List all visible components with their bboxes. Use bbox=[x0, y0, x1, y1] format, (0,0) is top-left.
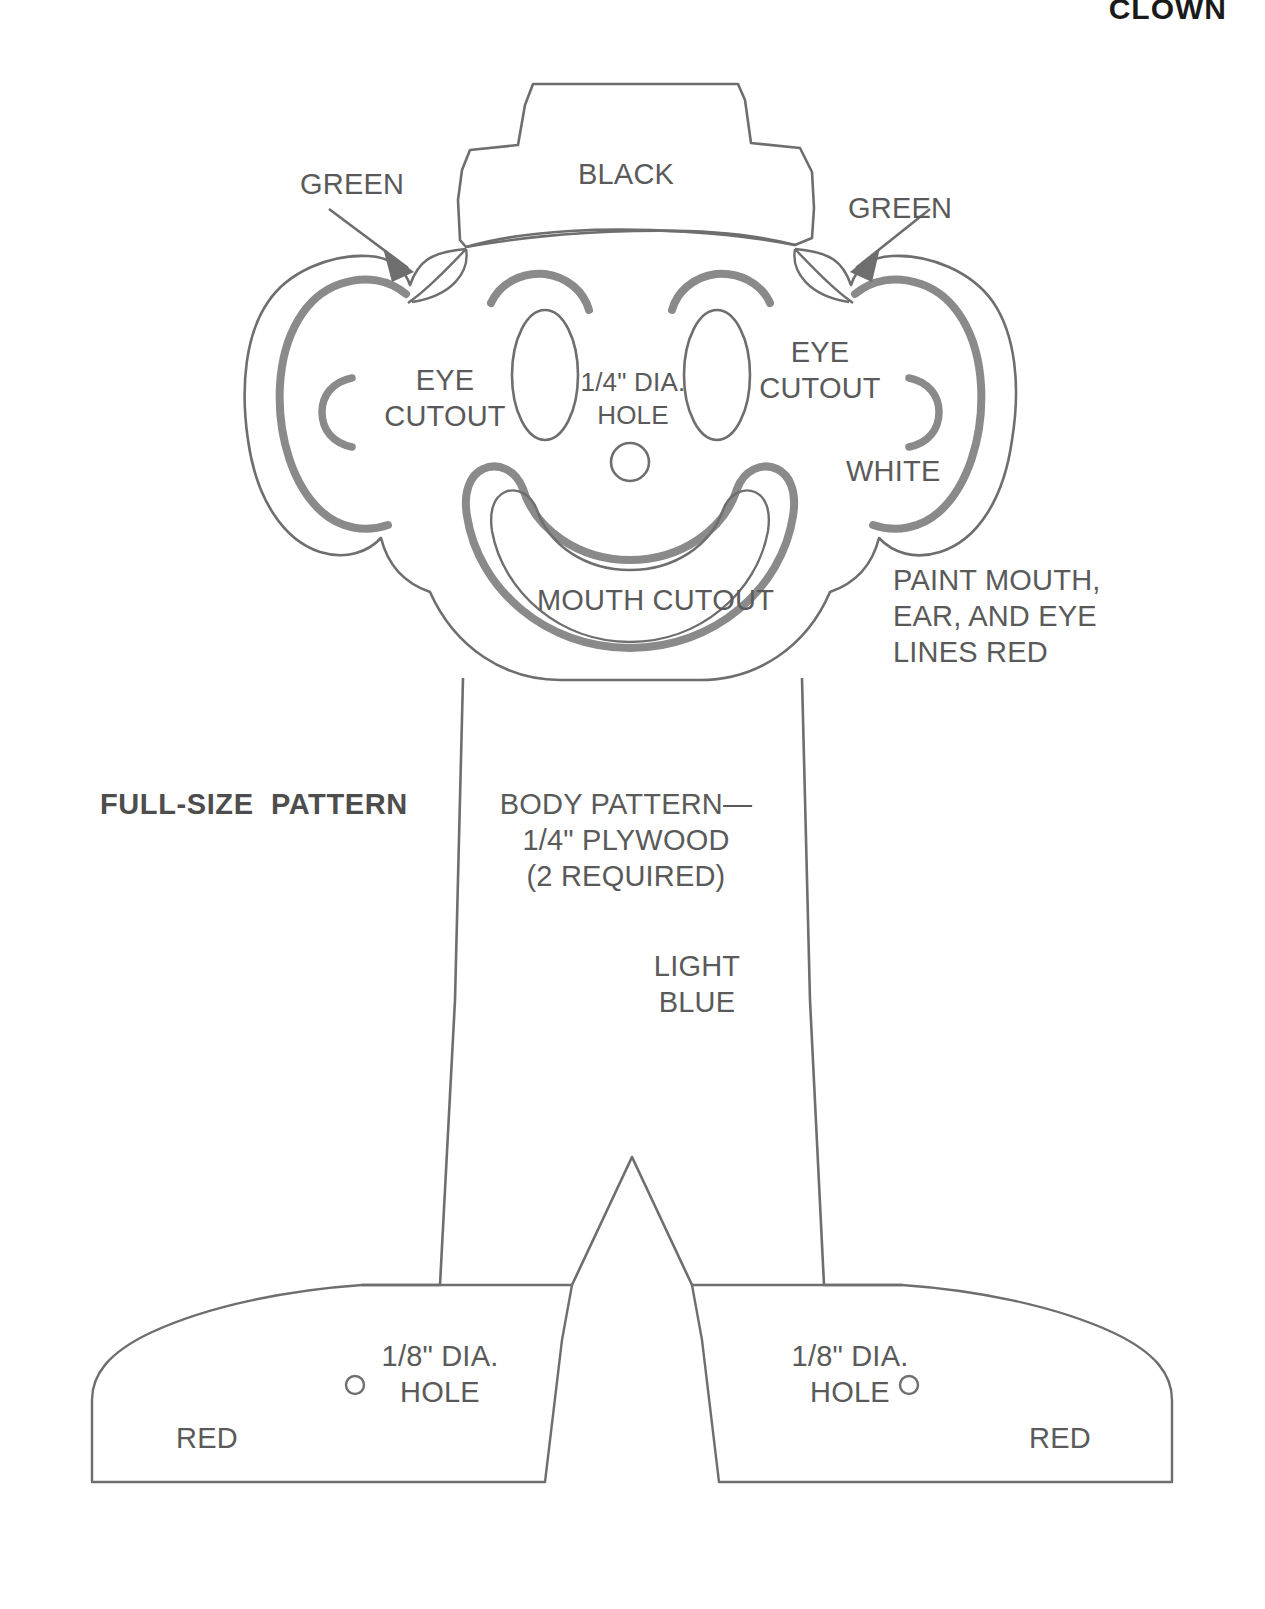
label-body-pattern: BODY PATTERN— 1/4" PLYWOOD (2 REQUIRED) bbox=[476, 786, 776, 894]
label-green-left: GREEN bbox=[300, 166, 404, 202]
label-foot-color-left: RED bbox=[176, 1420, 238, 1456]
label-body-color: LIGHT BLUE bbox=[622, 948, 772, 1020]
label-eye-cutout-right: EYE CUTOUT bbox=[755, 334, 885, 406]
foot-right-shape bbox=[692, 1285, 1172, 1482]
label-eye-cutout-left: EYE CUTOUT bbox=[380, 362, 510, 434]
label-full-size-pattern: FULL-SIZE PATTERN bbox=[100, 786, 408, 822]
pattern-sheet: CLOWN bbox=[0, 0, 1265, 1609]
label-face-white: WHITE bbox=[846, 453, 940, 489]
label-mouth-cutout: MOUTH CUTOUT bbox=[537, 582, 774, 618]
nose-hole-circle bbox=[611, 443, 649, 481]
hair-tuft-shapes bbox=[408, 249, 853, 303]
label-foot-hole-right: 1/8" DIA. HOLE bbox=[770, 1338, 930, 1410]
label-green-right: GREEN bbox=[848, 190, 952, 226]
label-paint-note: PAINT MOUTH, EAR, AND EYE LINES RED bbox=[893, 562, 1101, 670]
label-foot-hole-left: 1/8" DIA. HOLE bbox=[360, 1338, 520, 1410]
green-leader-left bbox=[329, 209, 414, 282]
label-black-hat: BLACK bbox=[578, 156, 674, 192]
label-nose-hole: 1/4" DIA. HOLE bbox=[578, 366, 688, 432]
mouth-shape bbox=[466, 466, 794, 648]
eyebrow-paint-lines bbox=[491, 274, 770, 310]
label-foot-color-right: RED bbox=[1029, 1420, 1091, 1456]
